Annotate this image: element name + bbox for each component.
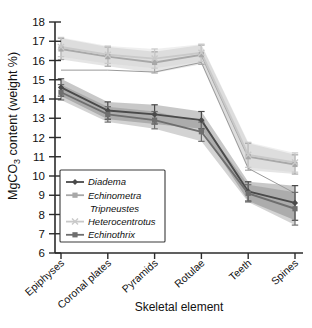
legend-label: Echinometra <box>88 190 141 201</box>
y-tick-label: 16 <box>32 55 45 67</box>
legend-label: Tripneustes <box>90 203 139 214</box>
legend-label: Diadema <box>88 176 126 187</box>
x-axis-ticks <box>61 253 295 259</box>
chart-figure: 6789101112131415161718 EpiphysesCoronal … <box>0 0 312 328</box>
y-tick-label: 17 <box>32 35 45 47</box>
data-point <box>152 118 157 123</box>
y-axis-ticks: 6789101112131415161718 <box>32 16 61 259</box>
legend-marker <box>72 232 77 237</box>
legend-label: Echinothrix <box>88 229 136 240</box>
x-axis-title: Skeletal element <box>135 300 224 314</box>
legend-label: Heterocentrotus <box>88 216 156 227</box>
y-tick-label: 14 <box>32 93 45 105</box>
y-tick-label: 6 <box>39 247 45 259</box>
data-point <box>199 129 204 134</box>
y-tick-label: 9 <box>39 189 45 201</box>
mgco3-line-chart: 6789101112131415161718 EpiphysesCoronal … <box>0 0 312 328</box>
x-category-label: Spines <box>268 257 300 287</box>
x-category-label: Teeth <box>226 256 253 282</box>
y-tick-label: 11 <box>33 151 45 163</box>
y-tick-label: 13 <box>32 112 45 124</box>
data-point <box>292 206 297 211</box>
y-tick-label: 12 <box>32 132 45 144</box>
data-point <box>58 90 63 95</box>
y-tick-label: 8 <box>39 209 45 221</box>
y-tick-label: 7 <box>39 228 45 240</box>
y-tick-label: 18 <box>32 16 45 28</box>
data-point <box>246 191 251 196</box>
legend-marker <box>72 193 77 198</box>
y-tick-label: 10 <box>32 170 45 182</box>
y-tick-label: 15 <box>32 74 45 86</box>
x-category-label: Epiphyses <box>22 257 66 298</box>
x-category-label: Rotulae <box>172 256 207 289</box>
data-point <box>105 112 110 117</box>
x-category-label: Pyramids <box>119 257 160 295</box>
y-axis-title: MgCO3 content (weight %) <box>6 52 22 200</box>
